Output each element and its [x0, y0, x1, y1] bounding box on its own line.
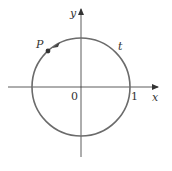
one-label: 1: [131, 90, 138, 103]
point-p: [46, 49, 51, 54]
unit-circle-diagram: P t 0 1 x y: [0, 0, 172, 171]
arc-t-label: t: [118, 40, 123, 53]
point-p-label: P: [35, 38, 44, 51]
y-axis-label: y: [69, 7, 77, 20]
x-axis-label: x: [152, 91, 159, 104]
origin-label: 0: [71, 90, 78, 103]
